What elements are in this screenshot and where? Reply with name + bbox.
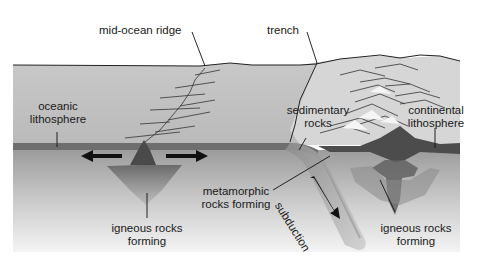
- label-continental-line1: continental: [398, 104, 474, 117]
- plate-tectonics-diagram: mid-ocean ridge trench oceanic lithosphe…: [0, 0, 478, 273]
- label-continental-lithosphere: continental lithosphere: [398, 104, 474, 130]
- label-oceanic-line1: oceanic: [22, 100, 94, 113]
- continental-crust: [290, 56, 460, 145]
- label-metamorphic-rocks: metamorphic rocks forming: [197, 185, 275, 211]
- label-metamorphic-line1: metamorphic: [197, 185, 275, 198]
- label-sedimentary-line2: rocks: [282, 117, 354, 130]
- label-igneous-left-line1: igneous rocks: [107, 222, 187, 235]
- label-metamorphic-line2: rocks forming: [197, 198, 275, 211]
- label-igneous-left-line2: forming: [107, 235, 187, 248]
- label-mid-ocean-ridge: mid-ocean ridge: [99, 24, 181, 37]
- label-oceanic-line2: lithosphere: [22, 113, 94, 126]
- label-igneous-right-line2: forming: [376, 235, 456, 248]
- label-igneous-right-line1: igneous rocks: [376, 222, 456, 235]
- label-sedimentary-rocks: sedimentary rocks: [282, 104, 354, 130]
- label-igneous-right: igneous rocks forming: [376, 222, 456, 248]
- label-sedimentary-line1: sedimentary: [282, 104, 354, 117]
- label-oceanic-lithosphere: oceanic lithosphere: [22, 100, 94, 126]
- label-igneous-left: igneous rocks forming: [107, 222, 187, 248]
- label-continental-line2: lithosphere: [398, 117, 474, 130]
- label-trench: trench: [267, 24, 299, 37]
